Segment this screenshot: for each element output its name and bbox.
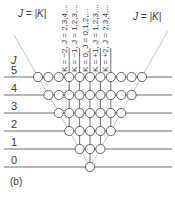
state-node bbox=[106, 108, 115, 117]
state-node bbox=[44, 90, 53, 99]
column-label-k-1: K = −1, J = 1,2,3,... bbox=[71, 4, 79, 72]
column-label-k-2: K = −2, J = 2,3,4,... bbox=[61, 4, 69, 72]
row-label-j1: 1 bbox=[11, 137, 17, 148]
state-node bbox=[85, 126, 94, 135]
state-node bbox=[75, 108, 84, 117]
state-node bbox=[44, 72, 53, 81]
boundary-label-right: J = |K| bbox=[133, 12, 161, 22]
state-node bbox=[117, 72, 126, 81]
state-node bbox=[54, 108, 63, 117]
state-node bbox=[85, 90, 94, 99]
state-node bbox=[75, 144, 84, 153]
state-node bbox=[54, 72, 63, 81]
row-label-j5: 5 bbox=[11, 65, 17, 76]
state-node bbox=[85, 108, 94, 117]
row-label-j4: 4 bbox=[11, 83, 17, 94]
state-node bbox=[96, 90, 105, 99]
state-node bbox=[96, 126, 105, 135]
state-node bbox=[106, 72, 115, 81]
boundary-label-left: J = |K| bbox=[18, 9, 46, 19]
state-node bbox=[106, 90, 115, 99]
state-node bbox=[127, 72, 136, 81]
state-node bbox=[137, 72, 146, 81]
state-node bbox=[117, 90, 126, 99]
state-node bbox=[85, 72, 94, 81]
state-node bbox=[65, 108, 74, 117]
state-node bbox=[106, 126, 115, 135]
state-node bbox=[33, 72, 42, 81]
state-node bbox=[65, 126, 74, 135]
state-node bbox=[96, 108, 105, 117]
state-node bbox=[75, 126, 84, 135]
row-label-j2: 2 bbox=[11, 119, 17, 130]
state-node bbox=[96, 144, 105, 153]
state-node bbox=[85, 144, 94, 153]
row-label-j0: 0 bbox=[11, 155, 17, 166]
panel-label: (b) bbox=[10, 177, 22, 187]
column-label-k0: K = 0, J = 0,1,2,... bbox=[82, 9, 90, 72]
column-label-k2: K = +2, J = 2,3,4,... bbox=[102, 4, 110, 72]
state-node bbox=[65, 72, 74, 81]
row-label-j3: 3 bbox=[11, 101, 17, 112]
state-node bbox=[96, 72, 105, 81]
state-node bbox=[75, 72, 84, 81]
state-node bbox=[117, 108, 126, 117]
state-node bbox=[85, 162, 94, 171]
column-label-k1: K = +1, J = 1,2,3,... bbox=[92, 4, 100, 72]
state-node bbox=[54, 90, 63, 99]
state-node bbox=[65, 90, 74, 99]
state-node bbox=[75, 90, 84, 99]
state-node bbox=[127, 90, 136, 99]
